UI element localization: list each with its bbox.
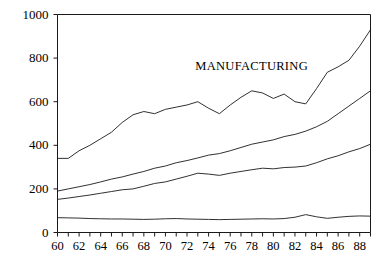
y-tick-label: 200: [5, 182, 49, 195]
series-line-agriculture: [58, 215, 371, 220]
plot-area: [0, 0, 379, 272]
series-line-retail: [58, 144, 371, 199]
y-tick-label: 0: [5, 226, 49, 239]
x-tick-label: 88: [347, 240, 373, 253]
y-tick-label: 800: [5, 51, 49, 64]
series-line-services: [58, 91, 371, 191]
y-tick-label: 1000: [5, 8, 49, 21]
line-chart: 0200400600800100060626466687072747678808…: [0, 0, 379, 272]
series-line-manufacturing: [58, 30, 371, 159]
y-tick-label: 600: [5, 95, 49, 108]
series-label-manufacturing: MANUFACTURING: [195, 59, 308, 74]
y-tick-label: 400: [5, 138, 49, 151]
